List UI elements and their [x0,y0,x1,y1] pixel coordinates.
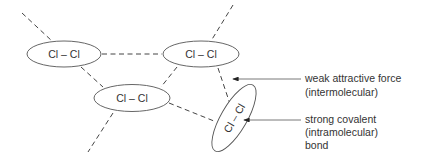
molecule-label: Cl – Cl [48,48,80,60]
molecule-top-right: Cl – Cl [163,41,239,67]
annotation-line: bond [305,139,329,151]
molecule-middle: Cl – Cl [94,85,170,112]
annotation-line: (intramolecular) [305,126,378,138]
molecule-label: Cl – Cl [116,92,148,104]
dashed-line-middle-to-rotated [169,103,214,121]
molecule-left: Cl – Cl [27,41,101,67]
dashed-line-topright-to-rotated [218,68,230,104]
dashed-line-bottom [88,113,113,152]
annotation-line: weak attractive force [304,72,401,84]
molecule-label: Cl – Cl [185,48,217,60]
dashed-line-topright-to-middle [161,67,177,87]
intermolecular-forces [22,5,233,152]
dashed-line-top [211,5,233,41]
annotation-line: strong covalent [305,113,376,125]
chlorine-intermolecular-diagram: Cl – Cl Cl – Cl Cl – Cl Cl – Cl weak att… [0,0,425,157]
dashed-line-top-left [22,13,52,41]
annotation-covalent-bond: strong covalent (intramolecular) bond [305,113,378,151]
dashed-line-left-to-middle [81,67,103,87]
molecule-rotated: Cl – Cl [204,79,265,157]
annotation-line: (intermolecular) [305,86,378,98]
annotation-weak-force: weak attractive force (intermolecular) [304,72,401,98]
